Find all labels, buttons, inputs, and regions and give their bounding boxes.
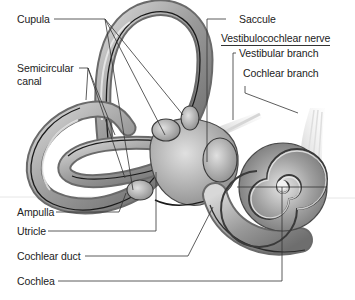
label-cupula: Cupula bbox=[17, 13, 50, 25]
inner-ear-diagram: Cupula Semicircular canal Ampulla Utricl… bbox=[0, 0, 355, 300]
label-vestibulocochlear-nerve: Vestibulocochlear nerve bbox=[221, 32, 330, 46]
label-semicircular-canal-line1: Semicircular bbox=[17, 62, 74, 74]
label-vestibular-branch: Vestibular branch bbox=[239, 47, 318, 59]
label-cochlear-branch: Cochlear branch bbox=[243, 67, 319, 79]
label-utricle: Utricle bbox=[17, 225, 46, 237]
label-saccule: Saccule bbox=[239, 13, 276, 25]
label-cochlea: Cochlea bbox=[17, 275, 55, 287]
label-ampulla: Ampulla bbox=[17, 206, 54, 218]
label-cochlear-duct: Cochlear duct bbox=[17, 250, 80, 262]
label-semicircular-canal-line2: canal bbox=[17, 75, 42, 87]
